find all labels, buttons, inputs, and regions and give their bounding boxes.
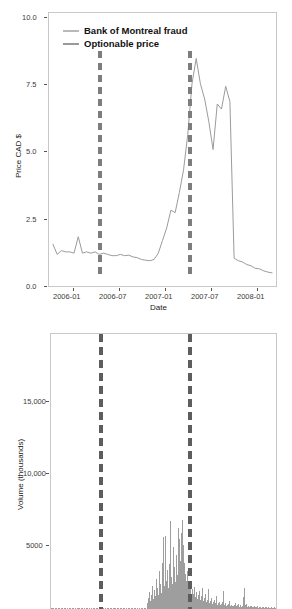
volume-chart-panel [50, 333, 277, 609]
ytick-mark [46, 401, 49, 402]
legend-label: Bank of Montreal fraud [84, 25, 187, 36]
stock-price-and-volume-figure: Bank of Montreal fraud Optionable price … [0, 0, 292, 609]
ytick-label: 0.0 [26, 282, 36, 291]
price-line-series [49, 13, 276, 286]
ytick-mark [44, 17, 47, 18]
ytick-mark [46, 545, 49, 546]
ytick-label: 10.0 [22, 13, 37, 22]
legend-item-optionable-price: Optionable price [63, 38, 187, 49]
xtick-label: 2006-01 [53, 292, 81, 301]
volume-bar-series [51, 334, 276, 609]
ytick-label: 2.5 [26, 215, 36, 224]
price-chart-panel: Bank of Montreal fraud Optionable price [48, 12, 277, 287]
price-y-axis-title: Price CAD $ [14, 134, 23, 178]
annotation-vline-bank-of-montreal-fraud [98, 51, 102, 277]
ytick-label: 15,000 [23, 397, 46, 406]
ytick-mark [44, 84, 47, 85]
xtick-mark [165, 288, 166, 291]
ytick-label: 5.0 [26, 147, 36, 156]
ytick-mark [44, 151, 47, 152]
annotation-vline-optionable-halt [188, 51, 192, 277]
annotation-vline-optionable-halt [188, 334, 192, 609]
legend-key-line-icon [63, 30, 79, 32]
xtick-mark [211, 288, 212, 291]
legend: Bank of Montreal fraud Optionable price [63, 25, 187, 49]
xtick-label: 2008-01 [237, 292, 265, 301]
annotation-vline-bank-of-montreal-fraud [99, 334, 103, 609]
ytick-label: 7.5 [26, 80, 36, 89]
xtick-label: 2007-07 [191, 292, 219, 301]
xtick-mark [119, 288, 120, 291]
volume-y-axis-title: Volume (thousands) [16, 439, 25, 510]
legend-key-line-icon [63, 43, 79, 45]
xtick-mark [257, 288, 258, 291]
xtick-label: 2007-01 [145, 292, 173, 301]
ytick-mark [44, 286, 47, 287]
ytick-mark [46, 473, 49, 474]
legend-label: Optionable price [84, 38, 159, 49]
ytick-label: 5000 [26, 541, 43, 550]
xtick-label: 2006-07 [99, 292, 127, 301]
xtick-mark [73, 288, 74, 291]
price-x-axis-title: Date [150, 303, 167, 312]
ytick-label: 10,000 [23, 469, 46, 478]
ytick-mark [44, 219, 47, 220]
legend-item-bank-of-montreal-fraud: Bank of Montreal fraud [63, 25, 187, 36]
